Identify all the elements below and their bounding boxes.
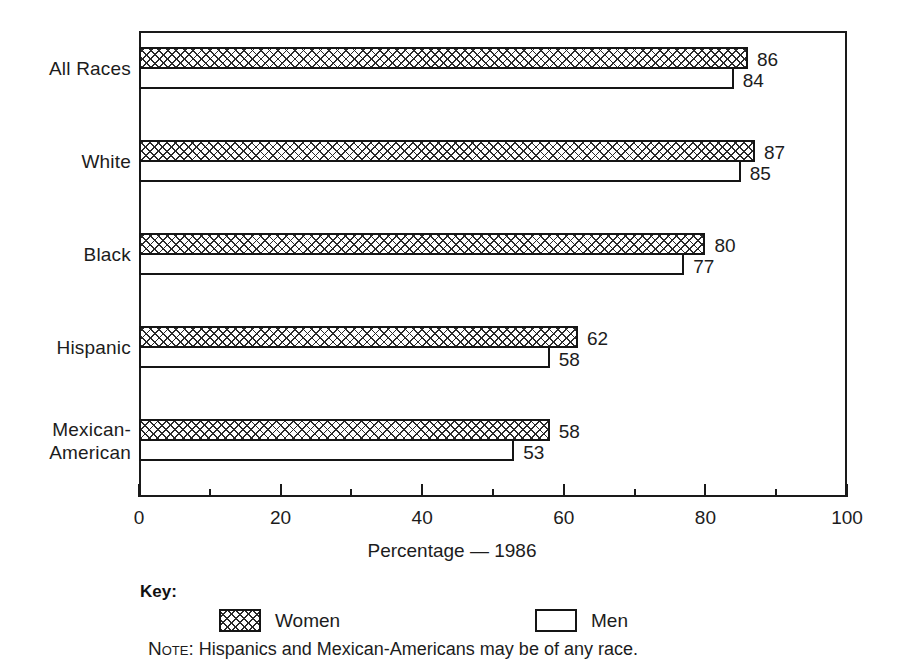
bar-men bbox=[139, 253, 684, 275]
axis-tick bbox=[704, 484, 706, 497]
axis-tick bbox=[634, 489, 636, 497]
bar-men bbox=[139, 67, 734, 89]
bar-value-men: 58 bbox=[559, 350, 580, 369]
chart-note: Note: Hispanics and Mexican-Americans ma… bbox=[148, 638, 638, 660]
category-label: Hispanic bbox=[57, 336, 131, 359]
axis-tick bbox=[350, 489, 352, 497]
bar-men bbox=[139, 346, 550, 368]
x-axis-title: Percentage — 1986 bbox=[0, 540, 904, 562]
axis-tick-label: 20 bbox=[251, 508, 311, 527]
axis-tick bbox=[138, 484, 140, 497]
axis-tick bbox=[280, 484, 282, 497]
category-label: Black bbox=[84, 243, 131, 266]
legend-label-men: Men bbox=[591, 610, 628, 632]
bar-value-men: 53 bbox=[523, 443, 544, 462]
bar-value-men: 85 bbox=[750, 164, 771, 183]
bar-value-women: 80 bbox=[714, 236, 735, 255]
bar-men bbox=[139, 160, 741, 182]
axis-tick-label: 80 bbox=[675, 508, 735, 527]
bar-women bbox=[139, 326, 578, 348]
axis-tick bbox=[563, 484, 565, 497]
axis-tick-label: 40 bbox=[392, 508, 452, 527]
bar-women bbox=[139, 140, 755, 162]
note-keyword: Note: bbox=[148, 638, 194, 659]
bar-women bbox=[139, 233, 705, 255]
axis-tick bbox=[492, 489, 494, 497]
legend-swatch-women bbox=[219, 609, 261, 632]
bar-women bbox=[139, 47, 748, 69]
legend-item-men: Men bbox=[535, 609, 628, 632]
note-text: Hispanics and Mexican-Americans may be o… bbox=[199, 639, 638, 659]
legend-label-women: Women bbox=[275, 610, 340, 632]
bar-value-men: 77 bbox=[693, 257, 714, 276]
bar-value-women: 62 bbox=[587, 329, 608, 348]
axis-tick bbox=[846, 484, 848, 497]
axis-tick-label: 60 bbox=[534, 508, 594, 527]
bar-men bbox=[139, 439, 514, 461]
category-label: White bbox=[81, 150, 131, 173]
axis-tick-label: 0 bbox=[109, 508, 169, 527]
axis-tick bbox=[775, 489, 777, 497]
axis-tick bbox=[421, 484, 423, 497]
bar-value-women: 58 bbox=[559, 422, 580, 441]
bar-value-men: 84 bbox=[743, 71, 764, 90]
legend-title: Key: bbox=[140, 582, 177, 602]
bar-value-women: 86 bbox=[757, 50, 778, 69]
category-label: Mexican- American bbox=[49, 418, 131, 464]
bar-women bbox=[139, 419, 550, 441]
legend-item-women: Women bbox=[219, 609, 340, 632]
bar-chart: All RacesWhiteBlackHispanicMexican- Amer… bbox=[0, 0, 904, 662]
legend-swatch-men bbox=[535, 609, 577, 632]
bar-value-women: 87 bbox=[764, 143, 785, 162]
axis-tick-label: 100 bbox=[817, 508, 877, 527]
axis-tick bbox=[209, 489, 211, 497]
category-label: All Races bbox=[49, 57, 131, 80]
